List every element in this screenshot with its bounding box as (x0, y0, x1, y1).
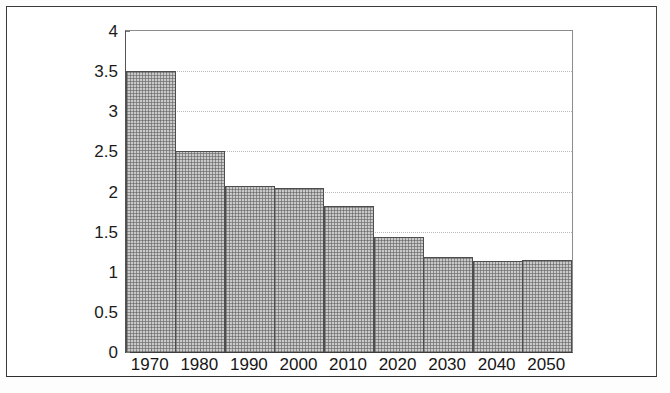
y-axis-label: 3 (58, 103, 118, 120)
x-axis: 197019801990200020102020203020402050 (125, 356, 573, 382)
y-axis-label: 3.5 (58, 63, 118, 80)
x-axis-tick (250, 348, 251, 352)
y-axis-tick (126, 352, 130, 353)
x-axis-label: 2020 (373, 356, 423, 373)
y-axis-label: 1.5 (58, 223, 118, 240)
gridline (126, 71, 572, 72)
x-axis-tick (399, 348, 400, 352)
y-axis-label: 2.5 (58, 143, 118, 160)
bar (473, 261, 523, 352)
y-axis: 00.511.522.533.54 (54, 30, 118, 353)
x-axis-label: 2040 (472, 356, 522, 373)
x-axis-tick (498, 348, 499, 352)
bar (225, 186, 275, 352)
x-axis-tick (349, 348, 350, 352)
x-axis-tick (299, 348, 300, 352)
bar-chart: 00.511.522.533.54 1970198019902000201020… (0, 0, 670, 393)
x-axis-label: 2010 (323, 356, 373, 373)
bar (324, 206, 374, 352)
bar (175, 151, 225, 352)
bar (423, 257, 473, 352)
x-axis-label: 2050 (521, 356, 571, 373)
x-axis-tick (151, 348, 152, 352)
x-axis-label: 2000 (274, 356, 324, 373)
x-axis-tick (547, 348, 548, 352)
y-axis-label: 0.5 (58, 303, 118, 320)
y-axis-label: 4 (58, 23, 118, 40)
x-axis-label: 1970 (125, 356, 175, 373)
bar (374, 237, 424, 352)
figure-caption-strip (0, 385, 670, 393)
y-axis-label: 2 (58, 183, 118, 200)
x-axis-tick (448, 348, 449, 352)
y-axis-label: 1 (58, 263, 118, 280)
x-axis-label: 1980 (175, 356, 225, 373)
plot-area (125, 30, 573, 353)
bar (126, 71, 176, 352)
bar (274, 188, 324, 352)
x-axis-label: 1990 (224, 356, 274, 373)
gridline (126, 111, 572, 112)
bar (522, 260, 572, 352)
scanned-page: 00.511.522.533.54 1970198019902000201020… (0, 0, 670, 393)
x-axis-tick (200, 348, 201, 352)
y-axis-label: 0 (58, 344, 118, 361)
y-axis-tick (126, 31, 130, 32)
x-axis-label: 2030 (422, 356, 472, 373)
